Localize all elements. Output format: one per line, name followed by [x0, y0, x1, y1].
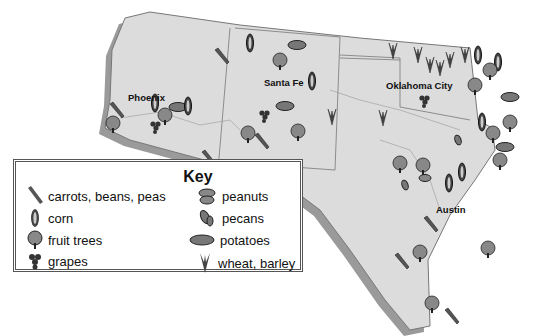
- city-austin: Austin: [436, 204, 466, 215]
- corn-icon: [26, 208, 44, 228]
- fruit-tree-icon: [26, 230, 44, 250]
- key-item-fruit-trees: fruit trees: [26, 230, 102, 250]
- key-item-potatoes: potatoes: [188, 230, 270, 250]
- key-item-grapes: grapes: [26, 251, 88, 271]
- key-item-carrots: carrots, beans, peas: [26, 186, 166, 206]
- peanut-icon: [196, 186, 218, 206]
- city-oklahoma-city: Oklahoma City: [386, 80, 453, 91]
- map-key: Key carrots, beans, peas corn fruit tree…: [13, 159, 303, 272]
- city-santa-fe: Santa Fe: [264, 77, 304, 88]
- city-phoenix: Phoenix: [128, 92, 165, 103]
- key-item-peanuts: peanuts: [196, 186, 268, 206]
- carrot-icon: [26, 186, 44, 206]
- key-item-pecans: pecans: [196, 208, 264, 228]
- pecan-icon: [196, 208, 218, 228]
- potato-icon: [188, 230, 216, 250]
- key-item-corn: corn: [26, 208, 73, 228]
- key-item-wheat: wheat, barley: [196, 251, 295, 275]
- key-title: Key: [16, 168, 300, 186]
- grapes-icon: [26, 251, 44, 271]
- wheat-icon: [196, 251, 214, 275]
